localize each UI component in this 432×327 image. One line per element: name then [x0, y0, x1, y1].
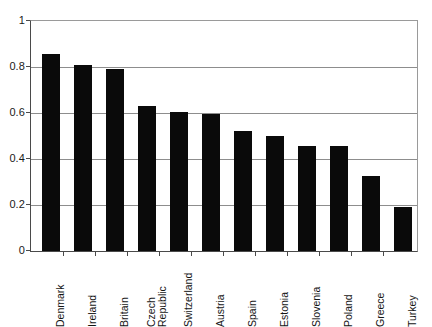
x-tick-mark-4 [159, 251, 160, 256]
y-tick-label-1: 1 [0, 15, 25, 26]
x-tick-mark-5 [191, 251, 192, 256]
x-tick-mark-6 [223, 251, 224, 256]
x-label-text: Ireland [87, 258, 98, 327]
bar-denmark [42, 54, 60, 251]
x-tick-mark-7 [255, 251, 256, 256]
x-label-text: Slovenia [311, 258, 322, 327]
bar-slovenia [298, 146, 316, 251]
x-axis-labels: Denmark Ireland Britain Czech Republic S… [31, 258, 417, 327]
bar-chart: 1 0.8 0.6 0.4 0.2 0 [0, 0, 432, 327]
x-label-czech-republic: Czech Republic [146, 258, 180, 327]
bars-layer [31, 21, 417, 251]
x-tick-mark-1 [63, 251, 64, 256]
x-label-text: Poland [343, 258, 354, 327]
y-tick-label-0.4: 0.4 [0, 153, 25, 164]
x-label-turkey: Turkey [407, 258, 432, 327]
bar-poland [330, 146, 348, 251]
x-label-switzerland: Switzerland [183, 258, 217, 327]
bar-austria [202, 114, 220, 251]
bar-czech-republic [138, 106, 156, 251]
y-tick-mark-0.2 [26, 204, 30, 205]
y-tick-mark-1 [26, 20, 30, 21]
y-tick-label-0.6: 0.6 [0, 107, 25, 118]
x-tick-mark-3 [127, 251, 128, 256]
x-label-text: Spain [247, 258, 258, 327]
x-label-text: Austria [215, 258, 226, 327]
x-label-estonia: Estonia [279, 258, 313, 327]
x-label-text-line2: Republic [157, 258, 168, 327]
x-tick-mark-8 [287, 251, 288, 256]
x-tick-mark-11 [383, 251, 384, 256]
y-tick-mark-0 [26, 250, 30, 251]
bar-greece [362, 176, 380, 251]
bar-turkey [394, 207, 412, 251]
y-tick-mark-0.6 [26, 112, 30, 113]
x-label-denmark: Denmark [55, 258, 89, 327]
x-label-text: Turkey [407, 258, 418, 327]
bar-spain [234, 131, 252, 251]
y-tick-label-0.2: 0.2 [0, 199, 25, 210]
x-label-austria: Austria [215, 258, 249, 327]
x-label-spain: Spain [247, 258, 281, 327]
x-label-ireland: Ireland [87, 258, 121, 327]
x-label-greece: Greece [375, 258, 409, 327]
y-tick-mark-0.4 [26, 158, 30, 159]
y-tick-label-0: 0 [0, 245, 25, 256]
bar-britain [106, 69, 124, 251]
x-label-text: Estonia [279, 258, 290, 327]
bar-ireland [74, 65, 92, 251]
x-label-text: Britain [119, 258, 130, 327]
y-tick-label-0.8: 0.8 [0, 61, 25, 72]
x-tick-mark-2 [95, 251, 96, 256]
x-label-text: Greece [375, 258, 386, 327]
x-label-text: Denmark [55, 258, 66, 327]
bar-estonia [266, 136, 284, 251]
bar-switzerland [170, 112, 188, 251]
x-label-poland: Poland [343, 258, 377, 327]
x-label-text: Switzerland [183, 258, 194, 327]
x-tick-mark-10 [351, 251, 352, 256]
x-label-slovenia: Slovenia [311, 258, 345, 327]
x-tick-mark-9 [319, 251, 320, 256]
y-tick-mark-0.8 [26, 66, 30, 67]
